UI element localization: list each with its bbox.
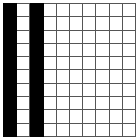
grid-cell-empty[interactable] [83,70,96,83]
grid-cell-empty[interactable] [17,30,30,43]
grid-cell-empty[interactable] [109,70,122,83]
grid-cell-empty[interactable] [122,4,135,17]
grid-cell-empty[interactable] [43,17,56,30]
grid-cell-empty[interactable] [43,57,56,70]
grid-cell-empty[interactable] [56,70,69,83]
grid-cell-empty[interactable] [109,43,122,56]
grid-cell-empty[interactable] [109,110,122,123]
grid-cell-filled[interactable] [30,4,43,17]
grid-cell-empty[interactable] [122,17,135,30]
grid-cell-empty[interactable] [122,97,135,110]
grid-cell-empty[interactable] [96,110,109,123]
grid-cell-filled[interactable] [30,30,43,43]
grid-cell-empty[interactable] [17,43,30,56]
grid-cell-empty[interactable] [17,17,30,30]
grid-cell-empty[interactable] [96,43,109,56]
grid-cell-filled[interactable] [30,97,43,110]
grid-cell-empty[interactable] [43,70,56,83]
grid-cell-filled[interactable] [4,43,17,56]
grid-cell-filled[interactable] [4,70,17,83]
grid-cell-empty[interactable] [69,70,82,83]
grid-cell-empty[interactable] [69,123,82,136]
grid-cell-filled[interactable] [30,110,43,123]
grid-cell-empty[interactable] [122,83,135,96]
grid-cell-empty[interactable] [43,4,56,17]
grid-cell-empty[interactable] [109,17,122,30]
grid-cell-empty[interactable] [56,97,69,110]
grid-cell-empty[interactable] [17,83,30,96]
grid-cell-filled[interactable] [30,17,43,30]
grid-cell-empty[interactable] [96,123,109,136]
grid-cell-filled[interactable] [4,123,17,136]
grid-cell-filled[interactable] [4,97,17,110]
grid-cell-empty[interactable] [69,97,82,110]
grid-cell-empty[interactable] [122,30,135,43]
grid-cell-empty[interactable] [122,70,135,83]
grid-cell-empty[interactable] [109,97,122,110]
grid-cell-filled[interactable] [30,43,43,56]
grid-cell-empty[interactable] [69,30,82,43]
grid-cell-empty[interactable] [69,43,82,56]
grid-cell-empty[interactable] [122,43,135,56]
grid-cell-empty[interactable] [69,110,82,123]
grid-cell-empty[interactable] [96,70,109,83]
grid-cell-filled[interactable] [30,123,43,136]
grid-cell-empty[interactable] [56,57,69,70]
grid-cell-empty[interactable] [43,110,56,123]
grid-cell-empty[interactable] [56,83,69,96]
grid-cell-filled[interactable] [4,4,17,17]
grid-cell-empty[interactable] [83,17,96,30]
grid-cell-empty[interactable] [96,17,109,30]
grid-cell-empty[interactable] [69,17,82,30]
grid-cell-empty[interactable] [56,110,69,123]
grid-cell-filled[interactable] [30,83,43,96]
grid-cell-empty[interactable] [56,4,69,17]
grid-cell-empty[interactable] [17,97,30,110]
grid-cell-empty[interactable] [83,4,96,17]
grid-cell-empty[interactable] [17,4,30,17]
grid-cell-empty[interactable] [43,30,56,43]
grid-cell-empty[interactable] [56,123,69,136]
grid-cell-filled[interactable] [4,30,17,43]
grid-cell-empty[interactable] [83,30,96,43]
grid-cell-empty[interactable] [109,30,122,43]
grid-cell-empty[interactable] [17,123,30,136]
grid-cell-empty[interactable] [17,57,30,70]
grid-cell-empty[interactable] [83,43,96,56]
grid-cell-filled[interactable] [30,57,43,70]
grid-cell-filled[interactable] [4,83,17,96]
grid-cell-empty[interactable] [56,43,69,56]
grid-cell-filled[interactable] [30,70,43,83]
grid-cell-empty[interactable] [69,83,82,96]
grid-cell-empty[interactable] [17,70,30,83]
grid-cell-empty[interactable] [83,110,96,123]
grid-cell-empty[interactable] [109,83,122,96]
grid-cell-empty[interactable] [83,83,96,96]
grid-cell-empty[interactable] [122,110,135,123]
grid-cell-empty[interactable] [96,97,109,110]
grid-cell-empty[interactable] [56,30,69,43]
grid-cell-empty[interactable] [43,97,56,110]
grid-cell-empty[interactable] [96,57,109,70]
grid-cell-empty[interactable] [83,123,96,136]
grid-cell-filled[interactable] [4,17,17,30]
grid-cell-empty[interactable] [43,83,56,96]
grid-cell-empty[interactable] [69,4,82,17]
grid-cell-empty[interactable] [122,57,135,70]
grid-cell-empty[interactable] [43,123,56,136]
grid-cell-empty[interactable] [83,57,96,70]
grid-cell-empty[interactable] [69,57,82,70]
grid-cell-empty[interactable] [83,97,96,110]
grid-cell-empty[interactable] [122,123,135,136]
grid-cell-empty[interactable] [43,43,56,56]
grid-cell-empty[interactable] [109,123,122,136]
grid-cell-empty[interactable] [109,57,122,70]
grid-cell-empty[interactable] [17,110,30,123]
grid-cell-empty[interactable] [96,4,109,17]
grid-cell-filled[interactable] [4,57,17,70]
grid-cell-empty[interactable] [109,4,122,17]
grid-cell-filled[interactable] [4,110,17,123]
grid-cell-empty[interactable] [96,83,109,96]
grid-cell-empty[interactable] [56,17,69,30]
grid-cell-empty[interactable] [96,30,109,43]
